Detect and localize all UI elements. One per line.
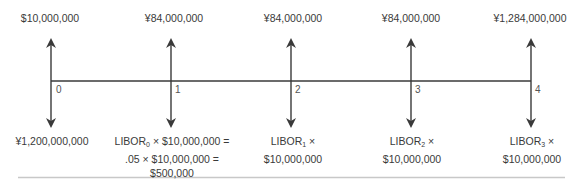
inflow-label-1: ¥84,000,000 <box>145 11 203 25</box>
outflow-line: $10,000,000 <box>264 152 322 166</box>
libor-subscript: 0 <box>146 141 150 148</box>
outflow-label-3: LIBOR2 × $10,000,000 <box>383 134 441 166</box>
libor-label: LIBOR <box>115 135 147 147</box>
inflow-label-4: ¥1,284,000,000 <box>494 11 567 25</box>
tick-label-1: 1 <box>175 84 181 95</box>
tick-label-3: 3 <box>415 84 421 95</box>
outflow-line: LIBOR0 × $10,000,000 = <box>115 134 230 152</box>
outflow-label-4: LIBOR3 × $10,000,000 <box>503 134 561 166</box>
libor-label: LIBOR <box>510 135 542 147</box>
outflow-line: LIBOR3 × <box>503 134 561 152</box>
outflow-label-2: LIBOR1 × $10,000,000 <box>264 134 322 166</box>
tick-label-2: 2 <box>295 84 301 95</box>
outflow-line: $10,000,000 <box>383 152 441 166</box>
inflow-label-3: ¥84,000,000 <box>382 11 440 25</box>
outflow-line: LIBOR2 × <box>383 134 441 152</box>
inflow-label-0: $10,000,000 <box>21 11 79 25</box>
outflow-line: ¥1,200,000,000 <box>16 134 89 148</box>
outflow-line: $10,000,000 <box>503 152 561 166</box>
libor-subscript: 2 <box>421 141 425 148</box>
outflow-label-1: LIBOR0 × $10,000,000 = .05 × $10,000,000… <box>115 134 230 180</box>
inflow-label-2: ¥84,000,000 <box>264 11 322 25</box>
tick-label-4: 4 <box>535 84 541 95</box>
tick-label-0: 0 <box>56 84 62 95</box>
outflow-line: $500,000 <box>115 166 230 180</box>
libor-subscript: 1 <box>302 141 306 148</box>
libor-label: LIBOR <box>271 135 303 147</box>
outflow-line: .05 × $10,000,000 = <box>115 152 230 166</box>
outflow-label-0: ¥1,200,000,000 <box>16 134 89 148</box>
outflow-line: LIBOR1 × <box>264 134 322 152</box>
libor-label: LIBOR <box>390 135 422 147</box>
libor-subscript: 3 <box>541 141 545 148</box>
